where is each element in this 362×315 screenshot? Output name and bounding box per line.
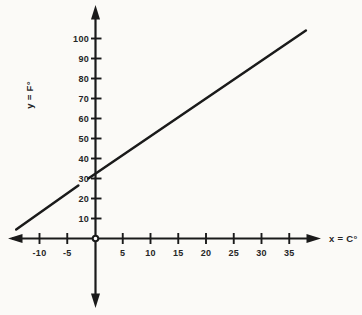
- x-tick-label: 30: [256, 248, 267, 258]
- x-tick-label: -10: [33, 248, 47, 258]
- x-tick-label: 35: [284, 248, 295, 258]
- x-axis-left-arrow: [8, 234, 23, 243]
- conversion-line-segment: [16, 186, 78, 230]
- x-tick-label: 10: [145, 248, 156, 258]
- x-tick-label: -5: [63, 248, 72, 258]
- x-tick-label: 25: [228, 248, 239, 258]
- x-axis-label: x = C°: [329, 233, 358, 244]
- y-axis-down-arrow: [91, 294, 100, 309]
- y-axis-label: y = F°: [24, 81, 35, 109]
- y-tick-label: 10: [78, 214, 89, 224]
- chart-canvas: -10-55101520253035102030405060708090100x…: [0, 0, 362, 315]
- y-tick-label: 20: [78, 194, 89, 204]
- y-axis-up-arrow: [91, 5, 100, 20]
- origin-point-marker: [93, 236, 99, 242]
- y-tick-label: 90: [78, 54, 89, 64]
- y-tick-label: 100: [73, 34, 89, 44]
- x-tick-label: 5: [120, 248, 125, 258]
- x-tick-label: 15: [173, 248, 184, 258]
- x-axis-right-arrow: [307, 234, 322, 243]
- y-tick-label: 50: [78, 134, 89, 144]
- y-tick-label: 60: [78, 114, 89, 124]
- y-tick-label: 70: [78, 94, 89, 104]
- x-tick-label: 20: [201, 248, 212, 258]
- celsius-fahrenheit-graph: -10-55101520253035102030405060708090100x…: [0, 0, 362, 315]
- conversion-line-segment: [88, 31, 306, 179]
- y-tick-label: 40: [78, 154, 89, 164]
- y-tick-label: 80: [78, 74, 89, 84]
